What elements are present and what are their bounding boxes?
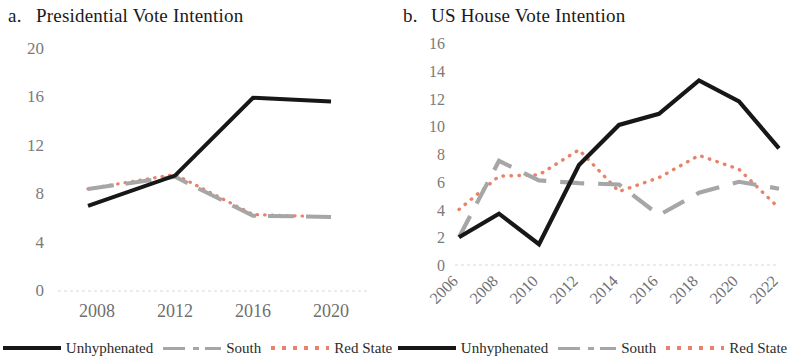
x-tick-2022-b: 2022 bbox=[746, 272, 781, 307]
legend-label-south-b: South bbox=[621, 341, 656, 356]
figure-two-panel-line-charts: a.Presidential Vote Intention 20 16 12 8… bbox=[0, 0, 790, 363]
y-tick-12-a: 12 bbox=[27, 136, 44, 155]
legend-a: Unhyphenated South Red State bbox=[0, 335, 395, 361]
y-tick-8-b: 8 bbox=[437, 146, 445, 163]
legend-swatch-dashed-line-icon bbox=[163, 343, 221, 353]
legend-label-unhyphenated-a: Unhyphenated bbox=[66, 341, 153, 356]
legend-label-red-state-b: Red State bbox=[729, 341, 787, 356]
x-tick-2020-a: 2020 bbox=[313, 301, 349, 321]
y-tick-0-a: 0 bbox=[36, 281, 45, 300]
y-tick-16-b: 16 bbox=[429, 35, 445, 52]
y-tick-10-b: 10 bbox=[429, 118, 445, 135]
y-tick-4-b: 4 bbox=[437, 202, 445, 219]
legend-swatch-dotted-line-icon bbox=[666, 343, 724, 353]
legend-swatch-solid-line-icon bbox=[398, 343, 456, 353]
plot-area-a: 20 16 12 8 4 0 2008 2012 bbox=[0, 0, 395, 330]
x-tick-2008-a: 2008 bbox=[79, 301, 115, 321]
x-tick-2006-b: 2006 bbox=[426, 272, 461, 307]
x-axis-labels-a: 2008 2012 2016 2020 bbox=[79, 301, 349, 321]
legend-item-red-state-a: Red State bbox=[271, 341, 392, 356]
y-axis-labels-b: 16 14 12 10 8 6 4 2 0 bbox=[429, 35, 445, 274]
series-line-unhyphenated-b bbox=[459, 81, 779, 245]
legend-b: Unhyphenated South Red State bbox=[395, 335, 790, 361]
y-tick-0-b: 0 bbox=[437, 257, 445, 274]
series-line-unhyphenated-a bbox=[88, 98, 331, 206]
legend-item-south-a: South bbox=[163, 341, 261, 356]
y-tick-12-b: 12 bbox=[429, 91, 445, 108]
x-tick-2020-b: 2020 bbox=[706, 272, 741, 307]
y-tick-2-b: 2 bbox=[437, 229, 445, 246]
series-line-red-state-b bbox=[459, 150, 779, 210]
x-tick-2012-b: 2012 bbox=[546, 272, 581, 307]
y-tick-16-a: 16 bbox=[27, 87, 44, 106]
legend-label-unhyphenated-b: Unhyphenated bbox=[461, 341, 548, 356]
legend-label-red-state-a: Red State bbox=[334, 341, 392, 356]
x-tick-2016-a: 2016 bbox=[235, 301, 271, 321]
legend-item-unhyphenated-b: Unhyphenated bbox=[398, 341, 548, 356]
y-tick-20-a: 20 bbox=[27, 39, 44, 58]
legend-swatch-dotted-line-icon bbox=[271, 343, 329, 353]
chart-b-svg: 16 14 12 10 8 6 4 2 0 bbox=[395, 0, 790, 330]
legend-swatch-solid-line-icon bbox=[3, 343, 61, 353]
plot-area-b: 16 14 12 10 8 6 4 2 0 bbox=[395, 0, 790, 330]
x-tick-2008-b: 2008 bbox=[466, 272, 501, 307]
x-tick-2010-b: 2010 bbox=[506, 272, 541, 307]
legend-swatch-dashed-line-icon bbox=[558, 343, 616, 353]
legend-item-red-state-b: Red State bbox=[666, 341, 787, 356]
legend-item-unhyphenated-a: Unhyphenated bbox=[3, 341, 153, 356]
y-tick-4-a: 4 bbox=[36, 233, 45, 252]
series-line-south-b bbox=[459, 161, 779, 237]
y-tick-14-b: 14 bbox=[429, 63, 445, 80]
y-tick-6-b: 6 bbox=[437, 174, 445, 191]
chart-a-svg: 20 16 12 8 4 0 2008 2012 bbox=[0, 0, 395, 330]
x-tick-2016-b: 2016 bbox=[626, 272, 661, 307]
legend-label-south-a: South bbox=[226, 341, 261, 356]
x-tick-2014-b: 2014 bbox=[586, 272, 621, 307]
panel-presidential-vote-intention: a.Presidential Vote Intention 20 16 12 8… bbox=[0, 0, 395, 363]
x-tick-2018-b: 2018 bbox=[666, 272, 701, 307]
y-axis-labels-a: 20 16 12 8 4 0 bbox=[27, 39, 45, 300]
y-tick-8-a: 8 bbox=[36, 184, 45, 203]
panel-us-house-vote-intention: b.US House Vote Intention 16 14 12 10 8 … bbox=[395, 0, 790, 363]
legend-item-south-b: South bbox=[558, 341, 656, 356]
x-axis-labels-b: 2006 2008 2010 2012 2014 2016 2018 2020 … bbox=[426, 272, 781, 307]
x-tick-2012-a: 2012 bbox=[157, 301, 193, 321]
